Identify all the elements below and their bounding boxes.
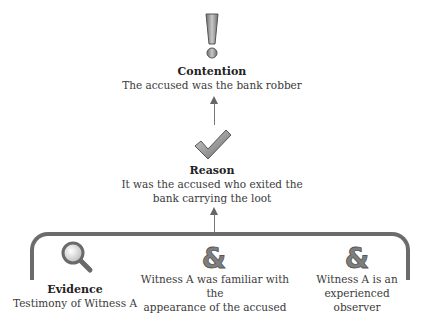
co-premise-2-line1: Witness A is an — [302, 272, 412, 286]
checkmark-icon — [193, 128, 233, 162]
reason-node: Reason It was the accused who exited the… — [100, 164, 324, 205]
ampersand-icon: & — [344, 244, 370, 272]
ampersand-icon: & — [201, 244, 227, 272]
co-premise-1-line2: appearance of the accused — [140, 300, 290, 314]
evidence-title: Evidence — [10, 283, 140, 296]
co-premise-2-line3: observer — [302, 300, 412, 314]
co-premise-1-line1: Witness A was familiar with the — [140, 272, 290, 300]
magnifier-icon — [60, 240, 94, 274]
reason-title: Reason — [100, 164, 324, 177]
reason-text-line2: bank carrying the loot — [100, 191, 324, 205]
arrow-line-contention — [214, 103, 216, 125]
evidence-text: Testimony of Witness A — [10, 296, 140, 310]
reason-text-line1: It was the accused who exited the — [100, 177, 324, 191]
evidence-node: Evidence Testimony of Witness A — [10, 283, 140, 310]
arrow-line-reason — [214, 214, 216, 234]
svg-text:&: & — [202, 244, 226, 272]
co-premise-2-node: Witness A is an experienced observer — [302, 272, 412, 314]
exclamation-icon — [202, 12, 222, 62]
contention-title: Contention — [112, 65, 312, 78]
contention-text: The accused was the bank robber — [112, 78, 312, 92]
contention-node: Contention The accused was the bank robb… — [112, 65, 312, 92]
svg-text:&: & — [345, 244, 369, 272]
co-premise-2-line2: experienced — [302, 286, 412, 300]
co-premise-1-node: Witness A was familiar with the appearan… — [140, 272, 290, 314]
